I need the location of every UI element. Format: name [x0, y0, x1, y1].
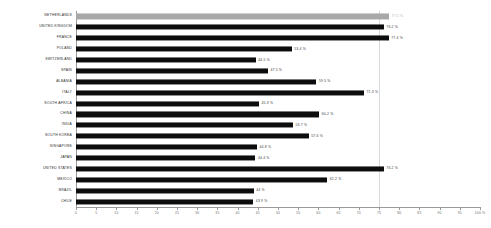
x-tick: [258, 207, 259, 210]
bar-value-label: 44.8 %: [259, 145, 271, 148]
x-tick: [197, 207, 198, 210]
bar-value-label: 44 %: [256, 189, 264, 192]
bar-row: NETHERLANDS77.5 %: [76, 11, 480, 22]
x-tick: [318, 207, 319, 210]
x-tick: [339, 207, 340, 210]
x-tick-label: 60: [316, 212, 320, 215]
bar-row: POLAND53.4 %: [76, 44, 480, 55]
x-tick-label: 95: [458, 212, 462, 215]
category-label: POLAND: [57, 47, 72, 50]
x-tick: [116, 207, 117, 210]
bar-value-label: 44.4 %: [258, 156, 270, 159]
x-tick: [379, 207, 380, 210]
category-label: CHILE: [61, 200, 72, 203]
category-label: SOUTH AFRICA: [44, 102, 72, 105]
category-label: JAPAN: [60, 156, 72, 159]
x-tick: [480, 207, 481, 210]
category-label: ITALY: [62, 91, 72, 94]
x-tick-label: 15: [135, 212, 139, 215]
bar-value-label: 57.6 %: [311, 135, 323, 138]
bar-value-label: 47.5 %: [270, 69, 282, 72]
bar: 45.3 %: [76, 101, 259, 106]
bar-row: FRANCE77.4 %: [76, 33, 480, 44]
category-label: SWITZERLAND: [45, 58, 72, 61]
category-label: MEXICO: [57, 178, 72, 181]
category-label: UNITED KINGDOM: [39, 26, 72, 29]
bar: 76.2 %: [76, 25, 384, 30]
bar-row: SWITZERLAND44.5 %: [76, 55, 480, 66]
bar-row: SOUTH AFRICA45.3 %: [76, 98, 480, 109]
bar: 59.5 %: [76, 79, 316, 84]
category-label: INDIA: [62, 124, 72, 127]
category-label: SINGAPORE: [50, 145, 72, 148]
x-tick-label: 85: [417, 212, 421, 215]
x-tick: [419, 207, 420, 210]
bar-row: JAPAN44.4 %: [76, 153, 480, 164]
plot-area: NETHERLANDS77.5 %UNITED KINGDOM76.2 %FRA…: [76, 11, 480, 207]
bar: 76.2 %: [76, 166, 384, 171]
bar-row: CHINA60.2 %: [76, 109, 480, 120]
bar-value-label: 59.5 %: [319, 80, 331, 83]
x-tick-label: 20: [155, 212, 159, 215]
x-tick-label: 50: [276, 212, 280, 215]
bar-value-label: 45.3 %: [262, 102, 274, 105]
bar-row: INDIA53.7 %: [76, 120, 480, 131]
x-tick-label: 5: [95, 212, 97, 215]
bar-row: MEXICO62.2 %: [76, 174, 480, 185]
bar-value-label: 53.7 %: [295, 124, 307, 127]
x-tick: [157, 207, 158, 210]
category-label: FRANCE: [57, 37, 72, 40]
bar: 60.2 %: [76, 112, 319, 117]
x-tick-label: 30: [195, 212, 199, 215]
x-tick: [137, 207, 138, 210]
bar: 71.3 %: [76, 90, 364, 95]
x-tick-label: 40: [236, 212, 240, 215]
bar: 47.5 %: [76, 68, 268, 73]
x-tick-label: 65: [337, 212, 341, 215]
bar: 53.7 %: [76, 123, 293, 128]
bar-value-label: 53.4 %: [294, 47, 306, 50]
bar-value-label: 60.2 %: [322, 113, 334, 116]
bar: 44.4 %: [76, 155, 255, 160]
bar-value-label: 77.4 %: [391, 37, 403, 40]
bar-value-label: 76.2 %: [386, 167, 398, 170]
bar-value-label: 77.5 %: [392, 15, 404, 18]
x-tick-label: 55: [296, 212, 300, 215]
bar-value-label: 44.5 %: [258, 58, 270, 61]
bar: 53.4 %: [76, 47, 292, 52]
x-tick: [177, 207, 178, 210]
bar: 62.2 %: [76, 177, 327, 182]
x-axis-ticks: 0510152025303540455055606570758085909510…: [76, 207, 480, 227]
bar-row: UNITED KINGDOM76.2 %: [76, 22, 480, 33]
bar-row: CHILE43.9 %: [76, 196, 480, 207]
x-tick: [298, 207, 299, 210]
bar: 44.5 %: [76, 57, 256, 62]
x-tick-label: 10: [114, 212, 118, 215]
bar-rows: NETHERLANDS77.5 %UNITED KINGDOM76.2 %FRA…: [76, 11, 480, 207]
x-tick-label: 100 %: [475, 212, 485, 215]
x-tick-label: 25: [175, 212, 179, 215]
bar-value-label: 76.2 %: [386, 26, 398, 29]
bar: 43.9 %: [76, 199, 253, 204]
bar-row: ALBANIA59.5 %: [76, 76, 480, 87]
x-tick-label: 45: [256, 212, 260, 215]
category-label: ALBANIA: [56, 80, 72, 83]
x-tick-label: 70: [357, 212, 361, 215]
bar-row: ITALY71.3 %: [76, 87, 480, 98]
bar: 77.4 %: [76, 36, 389, 41]
bar-row: SOUTH KOREA57.6 %: [76, 131, 480, 142]
bar-row: SPAIN47.5 %: [76, 65, 480, 76]
x-tick: [238, 207, 239, 210]
bar-value-label: 62.2 %: [330, 178, 342, 181]
bar: 77.5 %: [76, 14, 389, 19]
bar-value-label: 71.3 %: [367, 91, 379, 94]
bar: 57.6 %: [76, 134, 309, 139]
category-label: NETHERLANDS: [44, 15, 72, 18]
bar-row: BRAZIL44 %: [76, 185, 480, 196]
x-tick: [76, 207, 77, 210]
x-tick: [96, 207, 97, 210]
category-label: SOUTH KOREA: [45, 135, 72, 138]
x-tick: [359, 207, 360, 210]
bar-row: SINGAPORE44.8 %: [76, 142, 480, 153]
x-tick-label: 0: [75, 212, 77, 215]
